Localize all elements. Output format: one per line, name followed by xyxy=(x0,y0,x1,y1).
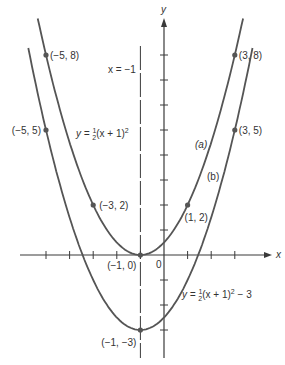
origin-label: 0 xyxy=(156,259,162,270)
data-point xyxy=(43,127,48,132)
data-point xyxy=(91,202,96,207)
data-point xyxy=(43,52,48,57)
data-point xyxy=(185,202,190,207)
curve-b-tag: (b) xyxy=(207,171,219,182)
equation-a: y = 12(x + 1)2 xyxy=(75,127,129,141)
point-label: (−1, 0) xyxy=(107,260,136,271)
point-label: (−1, −3) xyxy=(101,337,136,348)
svg-text:y = 12(x + 1)2 − 3: y = 12(x + 1)2 − 3 xyxy=(181,288,252,302)
data-point xyxy=(138,327,143,332)
x-axis-arrow-icon xyxy=(264,252,272,258)
y-axis-arrow-icon xyxy=(161,18,167,27)
point-label: (3, 5) xyxy=(239,125,262,136)
symmetry-label: x = −1 xyxy=(108,64,136,75)
point-label: (3, 8) xyxy=(239,50,262,61)
svg-text:y = 12(x + 1)2: y = 12(x + 1)2 xyxy=(75,127,129,141)
data-point xyxy=(138,252,143,257)
point-label: (−5, 8) xyxy=(50,50,79,61)
y-axis-label: y xyxy=(160,4,167,15)
parabola-chart: xy0 x = −1 (−5, 8)(−3, 2)(−1, 0)(1, 2)(3… xyxy=(0,0,285,365)
point-label: (−3, 2) xyxy=(99,200,128,211)
x-axis-label: x xyxy=(275,249,282,260)
point-label: (−5, 5) xyxy=(12,125,41,136)
point-label: (1, 2) xyxy=(185,212,208,223)
data-point xyxy=(232,52,237,57)
curve-a-tag: (a) xyxy=(195,139,207,150)
equation-b: y = 12(x + 1)2 − 3 xyxy=(181,288,252,302)
data-point xyxy=(232,127,237,132)
